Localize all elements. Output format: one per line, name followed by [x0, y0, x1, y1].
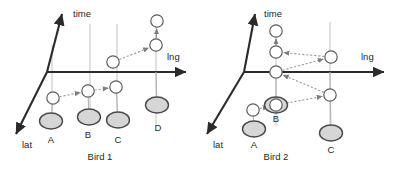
point-label-a: A: [48, 134, 55, 145]
panel-caption-bird-1: Bird 1: [88, 151, 113, 162]
point-label-b: B: [85, 129, 91, 140]
trajectory-node-1: [47, 92, 59, 104]
axis-label-lat: lat: [213, 139, 223, 150]
axis-time: [244, 14, 255, 72]
ground-marker-c: [107, 112, 130, 128]
trajectory-segment-3: [283, 75, 324, 92]
panel-bird-1: latlngtimeABCDBird 1: [16, 8, 186, 162]
ground-marker-c: [320, 125, 343, 141]
panel-caption-bird-2: Bird 2: [264, 151, 289, 162]
trajectory-node-3: [324, 89, 336, 101]
axis-label-time: time: [73, 8, 91, 19]
axis-label-time: time: [264, 8, 282, 19]
trajectory-segment-4: [282, 59, 323, 70]
trajectory-segment-5: [284, 53, 325, 57]
ground-marker-b: [78, 109, 101, 125]
point-label-b: B: [273, 113, 279, 124]
trajectory-segment-1: [60, 93, 81, 97]
point-label-d: D: [155, 122, 162, 133]
trajectory-node-7: [270, 25, 282, 37]
ground-marker-a: [40, 113, 63, 129]
point-label-c: C: [115, 134, 122, 145]
trajectory-node-2: [82, 85, 94, 97]
point-label-a: A: [251, 139, 258, 150]
ground-marker-d: [146, 97, 169, 113]
panel-bird-2: latlngtimeABCBird 2: [207, 8, 384, 162]
trajectory-node-6: [270, 46, 282, 58]
trajectory-node-1: [247, 104, 259, 116]
bird-trajectory-figure: latlngtimeABCDBird 1latlngtimeABCBird 2: [0, 0, 394, 171]
trajectory-node-4: [107, 56, 119, 68]
trajectory-node-4: [270, 66, 282, 78]
axis-label-lng: lng: [167, 51, 180, 62]
trajectory-node-5: [150, 39, 162, 51]
trajectory-segment-3: [119, 48, 149, 60]
trajectory-segment-2: [283, 96, 323, 103]
figure-canvas: latlngtimeABCDBird 1latlngtimeABCBird 2: [0, 0, 394, 171]
point-label-c: C: [328, 144, 335, 155]
panels-group: latlngtimeABCDBird 1latlngtimeABCBird 2: [16, 8, 384, 162]
axis-lat: [207, 72, 244, 134]
axis-time: [47, 14, 62, 72]
trajectory-segment-2: [95, 88, 109, 90]
trajectory-node-3: [110, 81, 122, 93]
ground-marker-a: [243, 121, 266, 137]
axis-label-lat: lat: [22, 139, 32, 150]
axis-label-lng: lng: [361, 51, 374, 62]
trajectory-node-2: [270, 99, 282, 111]
trajectory-node-5: [325, 51, 337, 63]
trajectory-node-6: [151, 15, 163, 27]
